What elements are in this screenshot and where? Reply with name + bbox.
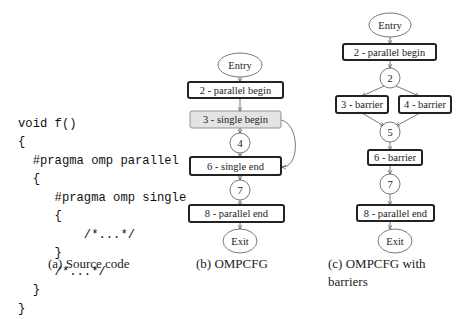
node-7-b: 7 [230,180,250,200]
node-exit-c: Exit [378,229,412,253]
node-parallel-end-c: 8 - parallel end [357,205,434,221]
svg-text:3 - barrier: 3 - barrier [341,99,383,110]
svg-text:Entry: Entry [228,60,252,71]
svg-text:8 - parallel end: 8 - parallel end [205,208,269,219]
svg-text:8 - parallel end: 8 - parallel end [364,208,428,219]
svg-text:4 - barrier: 4 - barrier [404,99,446,110]
svg-text:3 - single begin: 3 - single begin [203,114,269,125]
node-7-c: 7 [380,174,400,194]
svg-text:2 - parallel begin: 2 - parallel begin [354,47,426,58]
svg-text:7: 7 [237,185,242,196]
node-entry-c: Entry [369,13,411,37]
svg-text:2 - parallel begin: 2 - parallel begin [200,85,272,96]
node-2-c: 2 [380,68,400,88]
node-entry-b: Entry [218,53,262,77]
code-line: } [18,300,186,319]
svg-text:Exit: Exit [386,236,404,247]
node-barrier-4-c: 4 - barrier [399,96,451,113]
svg-text:Exit: Exit [231,236,249,247]
svg-text:6 - barrier: 6 - barrier [374,152,416,163]
svg-text:7: 7 [387,179,392,190]
node-4-b: 4 [230,133,250,153]
node-parallel-end-b: 8 - parallel end [189,205,284,222]
svg-text:6 - single end: 6 - single end [207,161,265,172]
node-barrier-3-c: 3 - barrier [336,96,388,113]
svg-text:5: 5 [387,127,392,138]
node-barrier-6-c: 6 - barrier [368,150,422,165]
node-exit-b: Exit [223,229,257,253]
svg-text:4: 4 [237,138,243,149]
node-single-begin-b: 3 - single begin [190,111,281,128]
svg-text:2: 2 [387,73,392,84]
node-parallel-begin-c: 2 - parallel begin [343,44,436,60]
svg-text:Entry: Entry [378,20,402,31]
node-single-end-b: 6 - single end [190,157,281,175]
node-parallel-begin-b: 2 - parallel begin [188,82,283,98]
node-5-c: 5 [380,122,400,142]
